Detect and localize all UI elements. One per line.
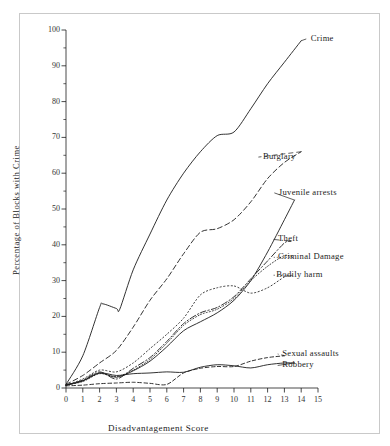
series-line-criminal-damage bbox=[66, 255, 293, 385]
series-label-criminal-damage: Criminal Damage bbox=[278, 251, 344, 261]
y-tick-label: 50 bbox=[40, 204, 60, 213]
chart-figure: Percentage of Blocks with Crime Disadvan… bbox=[0, 0, 390, 446]
series-label-juvenile-arrests: Juvenile arrests bbox=[279, 187, 337, 197]
series-label-theft: Theft bbox=[278, 233, 298, 243]
y-tick-label: 20 bbox=[40, 311, 60, 320]
y-tick-label: 80 bbox=[40, 97, 60, 106]
y-tick-label: 10 bbox=[40, 347, 60, 356]
x-axis-label: Disadvantagement Score bbox=[108, 423, 209, 433]
series-line-bodily-harm bbox=[66, 275, 293, 385]
series-label-burglary: Burglary bbox=[263, 151, 296, 161]
series-line-crime bbox=[66, 41, 301, 385]
series-line-sexual-assaults bbox=[66, 356, 284, 386]
y-tick-label: 90 bbox=[40, 61, 60, 70]
y-tick-label: 60 bbox=[40, 168, 60, 177]
x-tick-label: 15 bbox=[308, 395, 328, 404]
y-tick-label: 70 bbox=[40, 132, 60, 141]
series-label-bodily-harm: Bodily harm bbox=[276, 269, 323, 279]
y-tick-label: 40 bbox=[40, 240, 60, 249]
series-line-juvenile-arrests bbox=[66, 200, 294, 385]
y-tick-label: 0 bbox=[40, 383, 60, 392]
y-tick-label: 30 bbox=[40, 276, 60, 285]
y-axis-label: Percentage of Blocks with Crime bbox=[11, 120, 21, 300]
y-tick-label: 100 bbox=[40, 25, 60, 34]
series-line-theft bbox=[66, 241, 291, 385]
series-label-robbery: Robbery bbox=[282, 359, 314, 369]
series-label-crime: Crime bbox=[311, 33, 334, 43]
series-leader-crime bbox=[301, 39, 306, 41]
series-label-sexual-assaults: Sexual assaults bbox=[282, 348, 339, 358]
